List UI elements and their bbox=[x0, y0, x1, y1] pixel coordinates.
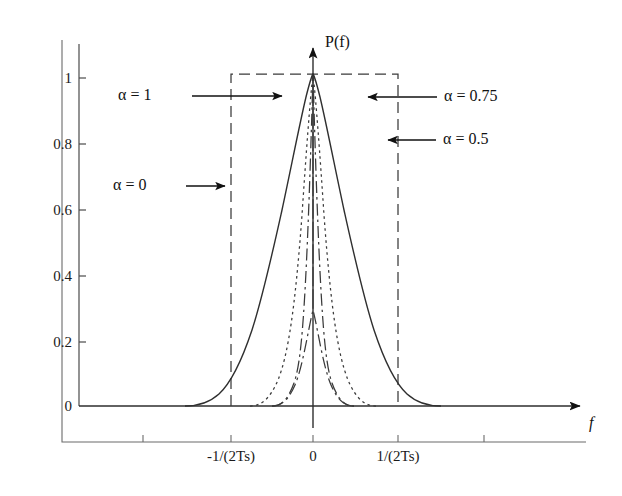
y-tick-label: 0 bbox=[30, 399, 72, 414]
y-axis-title: P(f) bbox=[325, 34, 350, 50]
x-axis-title: f bbox=[589, 415, 593, 431]
raised-cosine-figure: 1 0.8 0.6 0.4 0.2 0 -1/(2Ts) 0 1/(2Ts) P… bbox=[0, 0, 622, 496]
y-tick-label: 0.8 bbox=[30, 137, 72, 152]
annotation-alpha-05: α = 0.5 bbox=[443, 131, 488, 147]
y-tick-label: 0.2 bbox=[30, 335, 72, 350]
annotation-alpha-1: α = 1 bbox=[118, 87, 151, 103]
x-tick-label: 0 bbox=[283, 449, 343, 464]
y-axis bbox=[79, 44, 86, 406]
plot-canvas bbox=[0, 0, 622, 496]
annotation-alpha-0: α = 0 bbox=[113, 177, 146, 193]
y-tick-label: 0.6 bbox=[30, 203, 72, 218]
x-tick-label: 1/(2Ts) bbox=[343, 449, 453, 464]
y-tick-label: 0.4 bbox=[30, 269, 72, 284]
y-tick-label: 1 bbox=[30, 71, 72, 86]
annotation-alpha-075: α = 0.75 bbox=[444, 88, 497, 104]
x-tick-label: -1/(2Ts) bbox=[171, 449, 291, 464]
